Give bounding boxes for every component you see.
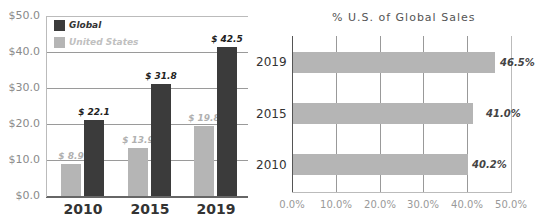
legend-swatch-global	[54, 20, 65, 31]
legend-label-global: Global	[69, 20, 101, 30]
x-category-label: 2010	[58, 201, 108, 217]
legend-label-us: United States	[69, 37, 138, 47]
bar-us-2019	[194, 126, 214, 196]
bar-global-2019	[217, 47, 237, 196]
bar-us-2015	[128, 148, 148, 196]
x-tick-label: 0.0%	[272, 199, 312, 210]
value-label-2015: 41.0%	[486, 108, 521, 119]
x-tick-label: 40.0%	[447, 199, 487, 210]
y-category-label: 2019	[256, 55, 286, 69]
x-tick-label: 50.0%	[491, 199, 531, 210]
y-tick-label: $40.0	[0, 45, 40, 58]
x-axis-line	[46, 196, 248, 198]
bar-share-2019	[293, 52, 495, 73]
x-tick-label: 10.0%	[316, 199, 356, 210]
bar-global-2015	[151, 84, 171, 196]
y-tick-label: $30.0	[0, 81, 40, 94]
value-label-global-2015: $ 31.8	[136, 71, 186, 81]
legend-swatch-us	[54, 37, 65, 48]
bar-share-2010	[293, 154, 468, 175]
value-label-2019: 46.5%	[500, 57, 535, 68]
x-category-label: 2015	[125, 201, 175, 217]
x-axis-line	[292, 192, 512, 193]
chart-title: % U.S. of Global Sales	[332, 11, 475, 24]
y-category-label: 2015	[256, 107, 286, 121]
bar-share-2015	[293, 103, 473, 124]
y-category-label: 2010	[256, 158, 286, 172]
bar-us-2010	[61, 164, 81, 196]
value-label-global-2010: $ 22.1	[69, 107, 119, 117]
gridline	[46, 16, 248, 17]
value-label-2010: 40.2%	[472, 159, 507, 170]
y-tick-label: $20.0	[0, 117, 40, 130]
y-tick-label: $50.0	[0, 9, 40, 22]
x-category-label: 2019	[191, 201, 241, 217]
x-tick-label: 30.0%	[403, 199, 443, 210]
value-label-global-2019: $ 42.5	[202, 34, 252, 44]
x-tick-label: 20.0%	[360, 199, 400, 210]
y-tick-label: $0.0	[0, 189, 40, 202]
bar-global-2010	[84, 120, 104, 196]
y-axis-line	[46, 16, 47, 197]
y-tick-label: $10.0	[0, 153, 40, 166]
